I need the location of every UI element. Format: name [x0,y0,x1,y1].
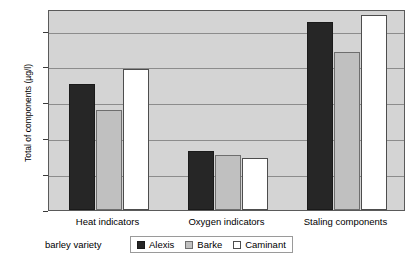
bar-barke-3 [334,52,360,210]
legend-item-caminant: Caminant [233,239,286,250]
legend-swatch-icon [137,241,145,249]
bar-caminant-2 [242,158,268,210]
legend-item-barke: Barke [185,239,222,250]
legend-item-alexis: Alexis [137,239,174,250]
bar-caminant-3 [361,15,387,210]
legend-label: Alexis [149,239,174,250]
legend-label: Barke [197,239,222,250]
legend-label: Caminant [245,239,286,250]
x-axis-title: barley variety [45,239,102,250]
x-axis-category-label: Heat indicators [76,216,139,227]
legend-swatch-icon [233,241,241,249]
bar-barke-1 [96,110,122,211]
bar-barke-2 [215,155,241,210]
bar-alexis-3 [307,22,333,210]
bar-caminant-1 [123,69,149,210]
legend: AlexisBarkeCaminant [130,236,293,253]
x-axis-category-label: Oxygen indicators [188,216,264,227]
legend-swatch-icon [185,241,193,249]
x-axis-category-label: Staling components [304,216,387,227]
bar-alexis-2 [188,151,214,210]
bar-chart: Total of components (µg/l) 0255075100125… [0,0,418,265]
y-axis-tick-mark [43,211,48,212]
y-axis-title: Total of components (µg/l) [23,23,33,203]
gridline [49,33,404,34]
bar-alexis-1 [69,84,95,210]
plot-area [48,10,405,211]
